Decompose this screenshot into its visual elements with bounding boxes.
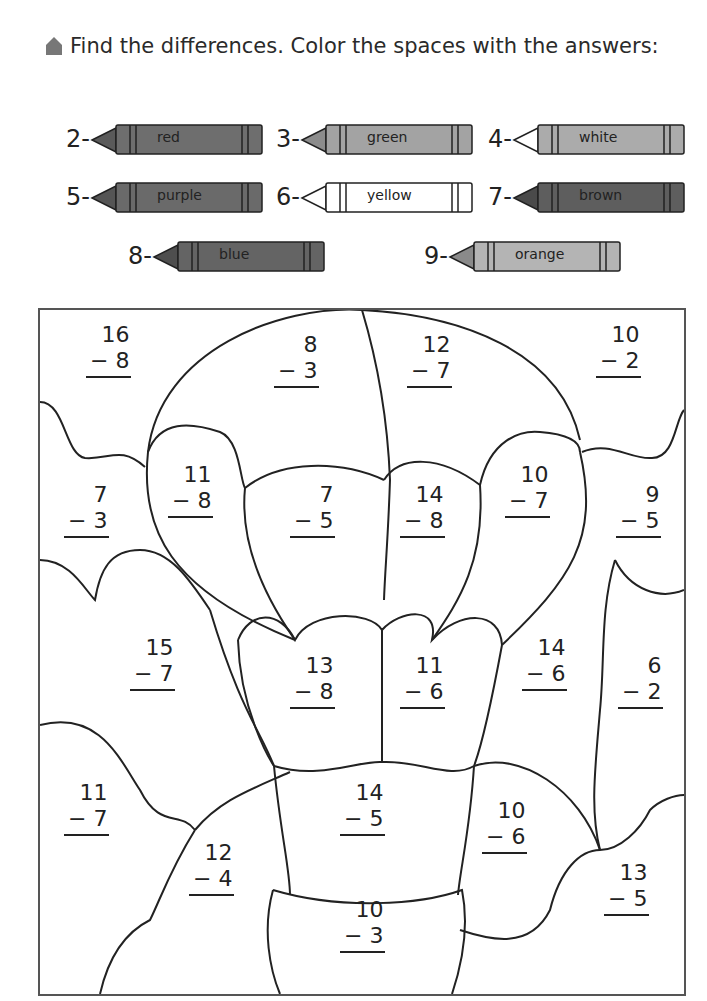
subtrahend: − 7 — [64, 806, 109, 836]
minuend: 10 — [482, 798, 527, 824]
minuend: 10 — [340, 897, 385, 923]
crayon-label: orange — [515, 246, 564, 262]
crayon-number: 2- — [62, 125, 90, 153]
minuend: 7 — [64, 482, 109, 508]
minuend: 15 — [130, 635, 175, 661]
subtraction-problem: 11− 8 — [168, 462, 213, 518]
crayon-yellow: 6-yellow — [272, 180, 476, 214]
subtrahend: − 8 — [168, 488, 213, 518]
minuend: 13 — [290, 653, 335, 679]
subtrahend: − 4 — [189, 866, 234, 896]
crayon-number: 6- — [272, 183, 300, 211]
instruction: Find the differences. Color the spaces w… — [44, 34, 659, 58]
crayon-label: brown — [579, 187, 622, 203]
minuend: 11 — [168, 462, 213, 488]
crayon-label: yellow — [367, 187, 412, 203]
minuend: 9 — [616, 482, 661, 508]
crayon-purple: 5-purple — [62, 180, 266, 214]
subtraction-problem: 12− 7 — [407, 332, 452, 388]
coloring-frame: 16− 88− 312− 710− 211− 87− 37− 514− 810−… — [38, 308, 686, 996]
subtraction-problem: 9− 5 — [616, 482, 661, 538]
crayon-number: 4- — [484, 125, 512, 153]
crayon-label: white — [579, 129, 617, 145]
crayon-number: 9- — [420, 242, 448, 270]
minuend: 6 — [618, 653, 663, 679]
minuend: 7 — [290, 482, 335, 508]
subtrahend: − 8 — [86, 348, 131, 378]
crayon-number: 3- — [272, 125, 300, 153]
crayon-orange: 9-orange — [420, 239, 624, 273]
instruction-text: Find the differences. Color the spaces w… — [70, 34, 659, 58]
subtraction-problem: 15− 7 — [130, 635, 175, 691]
minuend: 10 — [505, 462, 550, 488]
subtrahend: − 3 — [340, 923, 385, 953]
subtrahend: − 6 — [400, 679, 445, 709]
crayon-label: purple — [157, 187, 202, 203]
subtraction-problem: 14− 5 — [340, 780, 385, 836]
crayon-label: red — [157, 129, 180, 145]
subtraction-problem: 13− 5 — [604, 860, 649, 916]
minuend: 14 — [522, 635, 567, 661]
subtraction-problem: 7− 3 — [64, 482, 109, 538]
minuend: 10 — [596, 322, 641, 348]
crayon-red: 2-red — [62, 122, 266, 156]
subtraction-problem: 12− 4 — [189, 840, 234, 896]
subtrahend: − 3 — [274, 358, 319, 388]
subtraction-problem: 7− 5 — [290, 482, 335, 538]
subtraction-problem: 10− 2 — [596, 322, 641, 378]
subtrahend: − 6 — [482, 824, 527, 854]
minuend: 8 — [274, 332, 319, 358]
minuend: 12 — [189, 840, 234, 866]
minuend: 14 — [340, 780, 385, 806]
crayon-label: green — [367, 129, 407, 145]
minuend: 11 — [400, 653, 445, 679]
crayon-white: 4-white — [484, 122, 688, 156]
subtraction-problem: 11− 7 — [64, 780, 109, 836]
crayon-brown: 7-brown — [484, 180, 688, 214]
subtrahend: − 2 — [618, 679, 663, 709]
subtrahend: − 7 — [407, 358, 452, 388]
minuend: 11 — [64, 780, 109, 806]
subtrahend: − 6 — [522, 661, 567, 691]
crayon-green: 3-green — [272, 122, 476, 156]
crayon-label: blue — [219, 246, 249, 262]
subtraction-problem: 10− 6 — [482, 798, 527, 854]
subtraction-problem: 10− 7 — [505, 462, 550, 518]
subtrahend: − 8 — [290, 679, 335, 709]
crayon-number: 7- — [484, 183, 512, 211]
subtraction-problem: 8− 3 — [274, 332, 319, 388]
subtrahend: − 5 — [604, 886, 649, 916]
subtrahend: − 2 — [596, 348, 641, 378]
subtrahend: − 5 — [340, 806, 385, 836]
minuend: 13 — [604, 860, 649, 886]
subtraction-problem: 10− 3 — [340, 897, 385, 953]
subtraction-problem: 6− 2 — [618, 653, 663, 709]
minuend: 14 — [400, 482, 445, 508]
subtraction-problem: 14− 6 — [522, 635, 567, 691]
subtrahend: − 5 — [616, 508, 661, 538]
crayon-number: 5- — [62, 183, 90, 211]
crayon-blue: 8-blue — [124, 239, 328, 273]
crayon-number: 8- — [124, 242, 152, 270]
subtrahend: − 3 — [64, 508, 109, 538]
subtrahend: − 5 — [290, 508, 335, 538]
subtrahend: − 7 — [505, 488, 550, 518]
subtraction-problem: 11− 6 — [400, 653, 445, 709]
pentagon-bullet-icon — [44, 36, 64, 56]
subtraction-problem: 13− 8 — [290, 653, 335, 709]
minuend: 12 — [407, 332, 452, 358]
subtraction-problem: 14− 8 — [400, 482, 445, 538]
minuend: 16 — [86, 322, 131, 348]
subtrahend: − 7 — [130, 661, 175, 691]
subtraction-problem: 16− 8 — [86, 322, 131, 378]
subtrahend: − 8 — [400, 508, 445, 538]
